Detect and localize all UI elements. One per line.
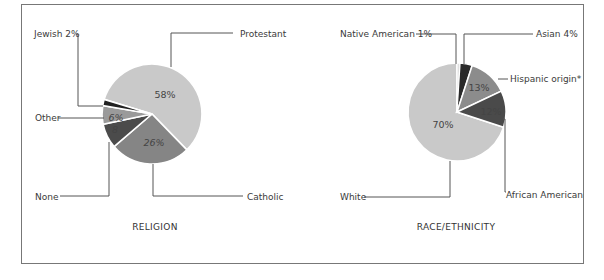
label-jewish: Jewish 2% — [33, 29, 80, 39]
label-white: White — [340, 192, 367, 202]
label-native-american: Native American 1% — [340, 29, 432, 39]
pct-protestant: 58% — [154, 89, 175, 100]
pct-none: 8 — [112, 124, 118, 135]
charts-canvas: 58% 26% 8 6% Jewish 2% Other None Cathol… — [0, 0, 604, 280]
religion-title: RELIGION — [132, 222, 177, 232]
pct-other: 6% — [108, 112, 123, 123]
pct-white: 70% — [432, 119, 453, 130]
leader-asian — [464, 34, 533, 64]
leader-white — [364, 161, 450, 197]
religion-pie: 58% 26% 8 6% Jewish 2% Other None Cathol… — [33, 29, 287, 232]
pct-hispanic: 13% — [468, 82, 489, 93]
label-asian: Asian 4% — [536, 29, 578, 39]
pct-catholic: 26% — [143, 137, 164, 148]
leader-protestant — [171, 33, 233, 67]
race-title: RACE/ETHNICITY — [417, 222, 496, 232]
label-african-american: African American — [506, 190, 583, 200]
label-hispanic: Hispanic origin* — [510, 74, 582, 84]
leader-catholic — [153, 164, 243, 196]
label-other: Other — [35, 113, 61, 123]
label-catholic: Catholic — [247, 192, 284, 202]
label-protestant: Protestant — [240, 29, 287, 39]
leader-none — [60, 142, 109, 196]
race-pie: 13% 12% 70% Native American 1% Asian 4% … — [340, 29, 583, 232]
leader-jewish — [76, 34, 103, 106]
pct-african-american: 12% — [480, 106, 501, 117]
label-none: None — [35, 192, 59, 202]
